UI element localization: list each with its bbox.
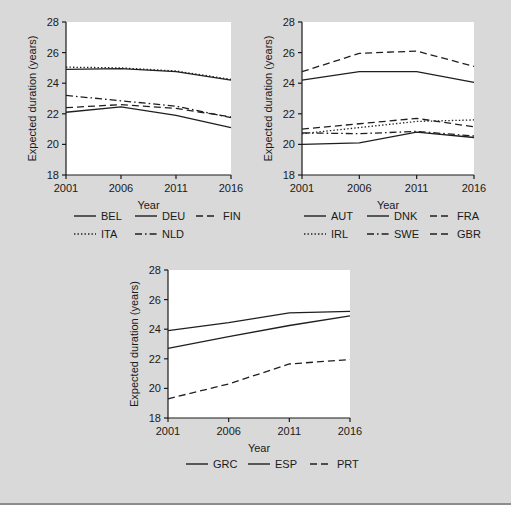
legend-label-irl: IRL (331, 228, 348, 240)
x-tick-label: 2016 (462, 182, 486, 194)
legend-label-fin: FIN (223, 210, 241, 222)
chart-panel-1: 1820222426282001200620112016YearExpected… (14, 8, 252, 256)
y-tick-label: 22 (283, 108, 295, 120)
y-tick-label: 28 (283, 16, 295, 28)
chart-panel-2: 1820222426282001200620112016YearExpected… (252, 8, 504, 256)
chart-panel-3: 1820222426282001200620112016YearExpected… (114, 258, 376, 500)
legend-label-ita: ITA (101, 228, 118, 240)
y-tick-label: 20 (283, 138, 295, 150)
y-tick-label: 24 (283, 77, 295, 89)
legend-label-swe: SWE (394, 228, 419, 240)
figure-container: 1820222426282001200620112016YearExpected… (0, 0, 511, 503)
y-tick-label: 20 (149, 382, 161, 394)
legend-label-gbr: GBR (457, 228, 481, 240)
x-tick-label: 2001 (290, 182, 314, 194)
y-tick-label: 22 (47, 108, 59, 120)
y-tick-label: 26 (149, 294, 161, 306)
x-tick-label: 2016 (219, 182, 243, 194)
legend-label-bel: BEL (101, 210, 122, 222)
y-tick-label: 18 (283, 169, 295, 181)
panel-1-svg: 1820222426282001200620112016YearExpected… (14, 8, 252, 256)
y-tick-label: 28 (149, 264, 161, 276)
panel-3-svg: 1820222426282001200620112016YearExpected… (114, 258, 376, 500)
x-tick-label: 2001 (54, 182, 78, 194)
legend-label-nld: NLD (162, 228, 184, 240)
legend-label-esp: ESP (275, 458, 297, 470)
x-tick-label: 2011 (278, 425, 302, 437)
y-tick-label: 18 (149, 412, 161, 424)
legend-label-deu: DEU (162, 210, 185, 222)
x-tick-label: 2011 (405, 182, 429, 194)
x-axis-title: Year (248, 442, 271, 454)
legend-label-prt: PRT (337, 458, 359, 470)
y-tick-label: 22 (149, 353, 161, 365)
legend-label-grc: GRC (213, 458, 238, 470)
y-tick-label: 18 (47, 169, 59, 181)
y-axis-title: Expected duration (years) (128, 281, 140, 407)
x-tick-label: 2016 (338, 425, 362, 437)
y-tick-label: 24 (149, 323, 161, 335)
plot-area-background (302, 22, 474, 175)
y-tick-label: 24 (47, 77, 59, 89)
x-axis-title: Year (137, 199, 160, 211)
x-tick-label: 2006 (216, 425, 240, 437)
panel-2-svg: 1820222426282001200620112016YearExpected… (252, 8, 504, 256)
plot-area-background (168, 270, 350, 418)
x-tick-label: 2011 (164, 182, 188, 194)
y-axis-title: Expected duration (years) (262, 36, 274, 162)
legend-label-aut: AUT (331, 210, 353, 222)
y-tick-label: 28 (47, 16, 59, 28)
x-tick-label: 2006 (109, 182, 133, 194)
legend-label-dnk: DNK (394, 210, 418, 222)
y-tick-label: 26 (47, 47, 59, 59)
x-tick-label: 2006 (347, 182, 371, 194)
x-tick-label: 2001 (156, 425, 180, 437)
y-tick-label: 26 (283, 47, 295, 59)
legend-label-fra: FRA (457, 210, 480, 222)
y-axis-title: Expected duration (years) (26, 36, 38, 162)
y-tick-label: 20 (47, 138, 59, 150)
